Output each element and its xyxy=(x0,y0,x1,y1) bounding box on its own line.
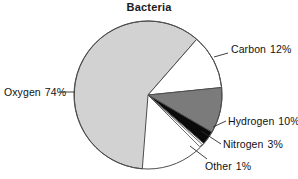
carbon-leader-line xyxy=(214,53,228,57)
pie-label-carbon-value: 12% xyxy=(270,43,291,55)
pie-slices xyxy=(74,21,222,169)
pie-label-hydrogen-value: 10% xyxy=(278,115,298,127)
pie-label-hydrogen: Hydrogen10% xyxy=(228,115,298,127)
pie-label-carbon-name: Carbon xyxy=(231,43,266,55)
pie-label-oxygen-name: Oxygen xyxy=(4,86,41,98)
other-leader-line xyxy=(190,146,207,159)
pie-label-other: Other1% xyxy=(205,160,251,172)
pie-label-hydrogen-name: Hydrogen xyxy=(228,115,274,127)
pie-label-carbon: Carbon12% xyxy=(231,43,291,55)
pie-label-other-name: Other xyxy=(205,160,232,172)
pie-chart-figure: Bacteria Oxyg xyxy=(0,0,298,179)
pie-label-nitrogen-name: Nitrogen xyxy=(223,138,264,150)
pie-label-nitrogen: Nitrogen3% xyxy=(223,138,283,150)
pie-label-oxygen-value: 74% xyxy=(45,86,66,98)
pie-label-nitrogen-value: 3% xyxy=(268,138,283,150)
pie-label-other-value: 1% xyxy=(236,160,251,172)
pie-label-oxygen: Oxygen74% xyxy=(4,86,66,98)
